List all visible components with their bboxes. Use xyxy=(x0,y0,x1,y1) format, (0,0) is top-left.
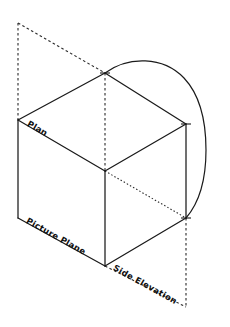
vertex-tick-marks xyxy=(100,73,191,218)
dotted-edge-center-to-right-lower xyxy=(105,171,186,218)
solid-edge-side-elevation-bottom xyxy=(105,218,186,266)
solid-edge-plan-lower-right xyxy=(105,124,186,171)
solid-edge-plan-upper-left xyxy=(18,73,105,120)
solid-edge-plan-upper-right xyxy=(105,73,186,124)
isometric-picture-plane-figure: Plan Picture Plane Side Elevation xyxy=(0,0,230,327)
isometric-solid-edges xyxy=(18,73,186,266)
technical-drawing-canvas xyxy=(0,0,230,327)
dashed-edge-top-left-diagonal xyxy=(18,23,105,73)
profile-curve-group xyxy=(105,61,206,218)
construction-lines-dotted xyxy=(105,171,186,218)
profile-curve xyxy=(105,61,206,218)
